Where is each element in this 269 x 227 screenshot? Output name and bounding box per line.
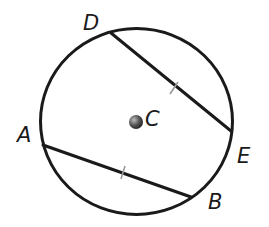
- circle-diagram: C D A E B: [0, 0, 269, 227]
- center-point: [129, 115, 143, 129]
- label-b: B: [208, 190, 222, 214]
- label-a: A: [15, 123, 31, 147]
- chord-de: [111, 33, 231, 131]
- chord-ab: [43, 145, 191, 197]
- label-c: C: [145, 107, 160, 131]
- label-e: E: [237, 144, 251, 168]
- label-d: D: [83, 11, 99, 35]
